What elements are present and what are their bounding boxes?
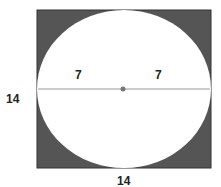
radius-label-right: 7 xyxy=(155,68,162,82)
diagram-canvas xyxy=(0,0,221,187)
radius-label-left: 7 xyxy=(75,68,82,82)
height-label: 14 xyxy=(6,92,19,106)
center-dot xyxy=(121,87,126,92)
width-label: 14 xyxy=(117,174,130,187)
